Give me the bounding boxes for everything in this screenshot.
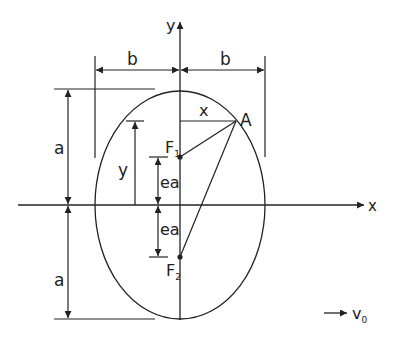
b-label-right: b [220,49,231,69]
focus-1-label: F1 [165,138,180,159]
ea-label-lower: ea [160,220,180,239]
ellipse-diagram: x y b b a a y x ea ea F1 F2 A v0 [0,0,394,341]
focus-2-dot [177,254,182,259]
focus-2-label: F2 [166,261,181,282]
ea-label-upper: ea [160,173,180,192]
point-a-label: A [240,110,252,130]
velocity-label: v0 [352,304,367,325]
x-label: x [199,101,208,120]
line-f2-to-a [180,121,236,257]
x-axis-label: x [368,197,377,215]
y-axis-label: y [166,16,175,35]
b-label-left: b [127,49,138,69]
a-label-top: a [54,138,64,158]
a-label-bottom: a [54,270,64,290]
line-f1-to-a [180,121,236,157]
y-label: y [118,160,128,180]
